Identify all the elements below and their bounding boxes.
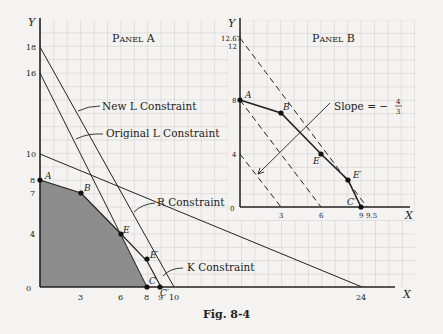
svg-text:7: 7	[30, 189, 35, 198]
label-b: B	[83, 183, 91, 193]
svg-text:9: 9	[359, 212, 363, 220]
panel-a-x-label: X	[402, 288, 412, 301]
point-e-prime	[144, 256, 149, 261]
svg-text:8: 8	[30, 176, 35, 185]
panel-a-y-ticks: 18 16 10 8 7 4	[26, 43, 36, 239]
r-label: R Constraint	[157, 196, 225, 208]
label-e-prime: E′	[149, 250, 159, 260]
svg-text:6: 6	[319, 212, 324, 220]
svg-text:8: 8	[144, 293, 149, 302]
svg-text:9.5: 9.5	[366, 212, 377, 220]
original-l-label: Original L Constraint	[106, 127, 220, 139]
k-label: K Constraint	[187, 261, 255, 273]
svg-text:8: 8	[232, 97, 236, 105]
svg-text:24: 24	[356, 293, 366, 302]
b-label-b: B	[282, 102, 290, 112]
panel-b-origin: 0	[230, 205, 234, 213]
point-b	[78, 190, 83, 195]
svg-text:10: 10	[26, 150, 36, 159]
b-label-e-prime: E′	[352, 170, 362, 180]
slope-denominator: 3	[396, 108, 400, 116]
b-point-c-prime	[358, 204, 363, 209]
svg-text:12.67: 12.67	[221, 35, 241, 43]
b-point-e-prime	[345, 177, 350, 182]
panel-a-origin: 0	[26, 284, 31, 293]
svg-text:3: 3	[78, 293, 83, 302]
figure-canvas: A B E E′ C C′ New L Constraint Original …	[0, 0, 443, 334]
panel-a-y-label: Y	[28, 16, 37, 29]
svg-text:9: 9	[158, 293, 163, 302]
panel-b-title: Panel B	[312, 32, 355, 45]
panel-a-title: Panel A	[112, 32, 156, 45]
svg-text:16: 16	[26, 69, 36, 78]
panel-a-x-ticks: 3 6 8 9 10 24	[78, 293, 366, 302]
label-a: A	[44, 171, 52, 181]
svg-text:4: 4	[232, 151, 237, 159]
point-a	[37, 177, 42, 182]
svg-text:10: 10	[169, 293, 179, 302]
slope-label: Slope = −	[334, 100, 388, 112]
b-label-e: E	[312, 156, 320, 166]
svg-text:6: 6	[118, 293, 123, 302]
b-point-a	[237, 97, 242, 102]
b-label-c-prime: C′	[347, 197, 356, 207]
svg-text:4: 4	[30, 230, 35, 239]
svg-text:18: 18	[26, 43, 36, 52]
new-l-label: New L Constraint	[102, 100, 197, 112]
panel-b-x-label: X	[404, 209, 414, 222]
figure-caption: Fig. 8-4	[203, 308, 251, 321]
panel-b-grid	[240, 20, 415, 207]
b-label-a: A	[244, 90, 252, 100]
label-c: C	[149, 276, 156, 286]
svg-text:12: 12	[228, 43, 237, 51]
label-e: E	[122, 225, 130, 235]
slope-numerator: 4	[396, 98, 401, 106]
svg-text:3: 3	[279, 212, 283, 220]
panel-b: A B E E′ C′ Slope = − 4 3 Panel B Y X 0 …	[221, 17, 423, 222]
